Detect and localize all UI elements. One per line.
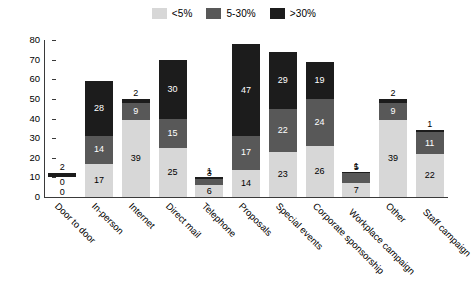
y-axis-tick-labels: 80706050403020100 <box>12 40 40 198</box>
y-tick-label: 70 <box>14 55 40 65</box>
legend-label-high: >30% <box>290 8 316 19</box>
x-label-slot: Corporate sponsorship <box>301 199 338 291</box>
bar-segment-value: 9 <box>390 107 395 116</box>
bar-segment[interactable]: 22 <box>269 109 297 152</box>
bar-segment[interactable]: 14 <box>85 136 113 163</box>
bar-segment[interactable]: 0 <box>48 187 76 197</box>
x-label-slot: Workplace campaign <box>338 199 375 291</box>
bar-column[interactable]: 192426 <box>301 40 338 197</box>
legend-label-mid: 5-30% <box>226 8 255 19</box>
bar-column[interactable]: 11122 <box>411 40 448 197</box>
bar-segment[interactable]: 17 <box>232 136 260 169</box>
y-tick-label: 0 <box>14 192 40 202</box>
bar-segment-value: 7 <box>354 186 359 195</box>
legend-swatch-mid <box>206 8 221 19</box>
bar-segment-value: 39 <box>131 154 141 163</box>
y-tick-label: 80 <box>14 35 40 45</box>
x-label-slot: Staff campaign <box>411 199 448 291</box>
bar-segment[interactable]: 19 <box>306 62 334 99</box>
bar-stack: 2939 <box>379 99 407 197</box>
bar-column[interactable]: 292223 <box>264 40 301 197</box>
legend-item-high[interactable]: >30% <box>270 8 316 19</box>
legend-item-mid[interactable]: 5-30% <box>206 8 255 19</box>
bar-segment[interactable]: 29 <box>269 52 297 109</box>
bar-segment-value: 15 <box>168 129 178 138</box>
bar-segment[interactable]: 9 <box>122 103 150 121</box>
bar-stack: 2939 <box>122 99 150 197</box>
bar-segment[interactable]: 15 <box>159 119 187 148</box>
bar-segment-value: 39 <box>388 154 398 163</box>
bar-segment[interactable]: 0 <box>48 177 76 187</box>
bar-segment-value: 0 <box>60 178 65 187</box>
bar-segment[interactable]: 7 <box>342 183 370 197</box>
y-tick-label: 60 <box>14 75 40 85</box>
bar-column[interactable]: 301525 <box>154 40 191 197</box>
x-label-slot: Internet <box>117 199 154 291</box>
x-axis-label[interactable]: Internet <box>127 201 157 231</box>
bar-segment-value: 22 <box>425 171 435 180</box>
bar-stack: 281417 <box>85 81 113 197</box>
bar-stack: 471714 <box>232 44 260 197</box>
x-label-slot: Special events <box>264 199 301 291</box>
bar-segment[interactable]: 17 <box>85 164 113 197</box>
x-axis-label[interactable]: Staff campaign <box>421 207 473 259</box>
bar-column[interactable]: 157 <box>338 40 375 197</box>
x-label-slot: Telephone <box>191 199 228 291</box>
bar-segment[interactable]: 14 <box>232 170 260 197</box>
bar-segment[interactable]: 22 <box>416 154 444 197</box>
bar-columns: 2002814172939301525136471714292223192426… <box>44 40 448 197</box>
bar-segment[interactable]: 5 <box>342 173 370 183</box>
bar-column[interactable]: 281417 <box>81 40 118 197</box>
bar-segment[interactable]: 39 <box>379 120 407 197</box>
legend-item-low[interactable]: <5% <box>152 8 193 19</box>
bar-segment-value: 19 <box>314 76 324 85</box>
bar-column[interactable]: 2939 <box>375 40 412 197</box>
bar-column[interactable]: 471714 <box>228 40 265 197</box>
x-label-slot: Direct mail <box>154 199 191 291</box>
bar-segment-value: 30 <box>168 85 178 94</box>
y-tick-label: 30 <box>14 133 40 143</box>
y-tick-label: 50 <box>14 94 40 104</box>
y-tick-label: 40 <box>14 114 40 124</box>
bar-column[interactable]: 136 <box>191 40 228 197</box>
bar-stack: 157 <box>342 172 370 198</box>
x-axis-line <box>44 197 448 198</box>
bar-segment-value: 1 <box>427 120 432 129</box>
bar-segment-value: 9 <box>133 107 138 116</box>
bar-segment[interactable]: 11 <box>416 132 444 154</box>
bar-segment-value: 14 <box>241 179 251 188</box>
bar-segment[interactable]: 26 <box>306 146 334 197</box>
bar-segment-value: 2 <box>60 163 65 172</box>
x-axis-category-labels: Door to doorIn-personInternetDirect mail… <box>44 199 448 291</box>
bar-stack: 301525 <box>159 60 187 197</box>
legend-swatch-high <box>270 8 285 19</box>
bar-segment-value: 6 <box>207 187 212 196</box>
bar-column[interactable]: 200 <box>44 40 81 197</box>
bar-stack: 136 <box>195 177 223 197</box>
bar-segment[interactable]: 9 <box>379 103 407 121</box>
x-axis-label[interactable]: Other <box>384 201 408 225</box>
bar-segment[interactable]: 23 <box>269 152 297 197</box>
bar-segment-value: 1 <box>207 167 212 176</box>
bar-stack: 192426 <box>306 62 334 197</box>
bar-segment[interactable]: 30 <box>159 60 187 119</box>
legend-label-low: <5% <box>172 8 193 19</box>
bar-segment[interactable]: 25 <box>159 148 187 197</box>
bar-segment[interactable]: 47 <box>232 44 260 136</box>
bar-segment-value: 26 <box>314 167 324 176</box>
bar-segment[interactable]: 6 <box>195 185 223 197</box>
bar-stack: 292223 <box>269 52 297 197</box>
bar-segment-value: 24 <box>314 118 324 127</box>
bar-column[interactable]: 2939 <box>117 40 154 197</box>
bar-segment-value: 22 <box>278 126 288 135</box>
bar-segment[interactable]: 28 <box>85 81 113 136</box>
y-tick-label: 10 <box>14 173 40 183</box>
bar-segment[interactable]: 39 <box>122 120 150 197</box>
chart-legend: <5% 5-30% >30% <box>0 8 468 19</box>
bar-segment-value: 17 <box>94 176 104 185</box>
bar-segment-value: 23 <box>278 170 288 179</box>
bar-segment[interactable]: 24 <box>306 99 334 146</box>
bar-segment-value: 1 <box>354 162 359 171</box>
bar-segment-value: 29 <box>278 76 288 85</box>
